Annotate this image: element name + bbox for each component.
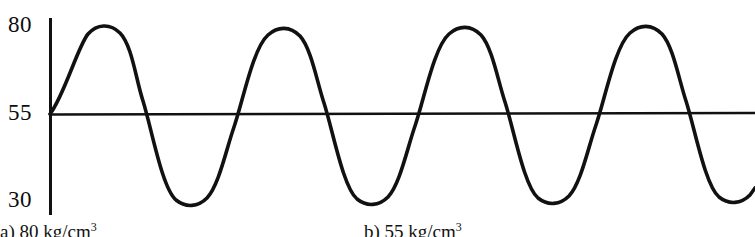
figure-root: 80 55 30 a) 80 kg/cm3 b) 55 kg/cm3 — [0, 0, 755, 237]
caption-a-marker: a) — [0, 221, 15, 237]
caption-b-value: 55 — [385, 221, 404, 237]
y-axis-tick-label-55: 55 — [8, 101, 32, 124]
caption-b-exponent: 3 — [456, 220, 462, 234]
caption-b-unit: kg/cm — [408, 221, 456, 237]
caption-b-marker: b) — [364, 221, 380, 237]
sine-wave-curve — [50, 26, 755, 205]
sine-wave-plot — [0, 0, 755, 237]
caption-a-unit: kg/cm — [43, 221, 91, 237]
caption-a: a) 80 kg/cm3 — [0, 221, 97, 237]
y-axis-tick-label-80: 80 — [8, 13, 32, 36]
caption-b: b) 55 kg/cm3 — [364, 221, 462, 237]
caption-a-value: 80 — [20, 221, 39, 237]
y-axis-tick-label-30: 30 — [8, 188, 32, 211]
mean-reference-line — [50, 113, 755, 115]
caption-a-exponent: 3 — [91, 220, 97, 234]
